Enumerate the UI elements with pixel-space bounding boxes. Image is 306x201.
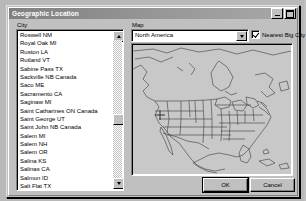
city-label: City <box>17 22 27 28</box>
list-item[interactable]: Salina KS <box>18 157 113 165</box>
list-item[interactable]: Sackville NB Canada <box>18 73 113 81</box>
list-item[interactable]: Salmon ID <box>18 174 113 182</box>
list-item[interactable]: Saco ME <box>18 81 113 89</box>
ok-button-label: OK <box>221 182 230 188</box>
nearest-big-city-label: Nearest Big City <box>262 32 304 38</box>
minimize-button[interactable] <box>271 8 283 19</box>
list-item[interactable]: Salem MI <box>18 132 113 140</box>
list-item[interactable]: Saint George UT <box>18 115 113 123</box>
map-region-dropdown-button[interactable] <box>236 31 247 41</box>
title-bar-buttons <box>271 8 297 19</box>
minimize-icon <box>275 15 280 16</box>
scrollbar-thumb[interactable] <box>113 114 124 125</box>
ok-button[interactable]: OK <box>203 178 248 192</box>
window-title: Geographic Location <box>9 10 79 17</box>
geographic-location-dialog: Geographic Location City Map Roswell NMR… <box>6 5 300 198</box>
list-item[interactable]: Rutland VT <box>18 56 113 64</box>
cancel-button-label: Cancel <box>263 182 282 188</box>
list-item[interactable]: Royal Oak MI <box>18 39 113 47</box>
north-america-map-icon <box>133 45 291 174</box>
nearest-big-city-checkbox[interactable]: Nearest Big City <box>251 30 304 39</box>
scrollbar-track[interactable] <box>113 40 122 180</box>
map-region-value: North America <box>135 31 173 40</box>
list-item[interactable]: Saint John NB Canada <box>18 123 113 131</box>
list-item[interactable]: Roswell NM <box>18 31 113 39</box>
list-item[interactable]: Sabine Pass TX <box>18 65 113 73</box>
maximize-icon <box>286 10 294 18</box>
city-list-items[interactable]: Roswell NMRoyal Oak MIRuston LARutland V… <box>18 31 113 189</box>
list-item[interactable]: Saint Catharines ON Canada <box>18 107 113 115</box>
maximize-button[interactable] <box>284 8 296 19</box>
title-bar[interactable]: Geographic Location <box>9 8 297 19</box>
list-item[interactable]: Ruston LA <box>18 48 113 56</box>
map-region-combobox[interactable]: North America <box>131 29 249 42</box>
list-item[interactable]: Salt Flat TX <box>18 182 113 189</box>
scroll-down-button[interactable] <box>113 178 124 189</box>
list-item[interactable]: Sacramento CA <box>18 90 113 98</box>
cancel-button[interactable]: Cancel <box>250 178 295 192</box>
arrow-down-icon <box>117 182 121 185</box>
map-label: Map <box>132 22 144 28</box>
list-item[interactable]: Salem NH <box>18 140 113 148</box>
desktop-background: Geographic Location City Map Roswell NMR… <box>0 0 304 201</box>
city-list-scrollbar[interactable] <box>113 31 122 189</box>
list-item[interactable]: Salinas CA <box>18 165 113 173</box>
checkbox-box[interactable] <box>251 30 260 39</box>
arrow-up-icon <box>117 35 121 38</box>
chevron-down-icon <box>240 35 244 38</box>
map-view[interactable] <box>131 43 293 176</box>
checkmark-icon <box>252 30 260 38</box>
list-item[interactable]: Saginaw MI <box>18 98 113 106</box>
list-item[interactable]: Salem OR <box>18 148 113 156</box>
city-listbox[interactable]: Roswell NMRoyal Oak MIRuston LARutland V… <box>16 29 124 191</box>
